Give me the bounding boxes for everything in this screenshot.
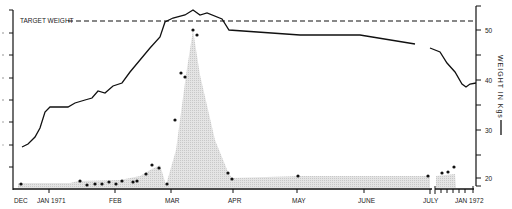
shaded-area-2 xyxy=(436,174,456,188)
tick-apr: APR xyxy=(228,197,242,204)
right-axis: 50 40 30 20 xyxy=(476,6,493,186)
tick-20: 20 xyxy=(485,175,493,182)
data-points xyxy=(19,28,455,186)
target-weight-line: TARGET WEIGHT xyxy=(20,17,476,24)
x-tick-labels: DEC JAN 1971 FEB MAR APR MAY JUNE JULY J… xyxy=(14,197,484,204)
tick-jan-1972: JAN 1972 xyxy=(455,197,484,204)
tick-dec: DEC xyxy=(14,197,28,204)
target-weight-label: TARGET WEIGHT xyxy=(20,17,74,24)
left-axis xyxy=(2,10,13,190)
tick-50: 50 xyxy=(485,27,493,34)
tick-30: 30 xyxy=(485,127,493,134)
weight-line xyxy=(22,10,415,147)
tick-feb: FEB xyxy=(109,197,122,204)
tick-mar: MAR xyxy=(165,197,180,204)
tick-june: JUNE xyxy=(358,197,376,204)
ylabel: WEIGHT IN Kgs xyxy=(496,55,504,119)
tick-july: JULY xyxy=(423,197,439,204)
shaded-area xyxy=(18,30,430,188)
weight-line-2 xyxy=(430,48,476,87)
weight-chart: DEC JAN 1971 FEB MAR APR MAY JUNE JULY J… xyxy=(0,0,512,209)
y-axis-label: WEIGHT IN Kgs xyxy=(496,55,504,135)
tick-may: MAY xyxy=(292,197,306,204)
tick-jan-1971: JAN 1971 xyxy=(37,197,66,204)
tick-40: 40 xyxy=(485,77,493,84)
